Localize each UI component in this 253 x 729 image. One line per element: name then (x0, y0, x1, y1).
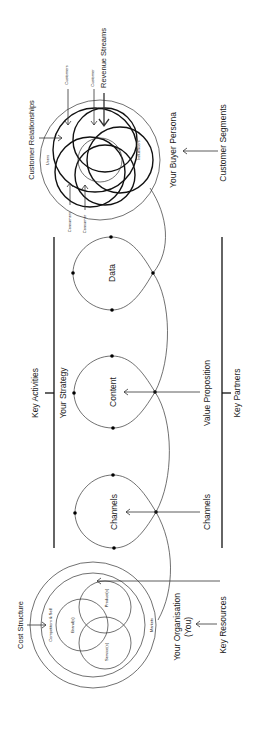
venn-brands (56, 599, 108, 651)
data-label: Data (107, 264, 117, 282)
content-label: Content (108, 376, 118, 406)
strategy-section: Key Activities Your Strategy Key Partner… (30, 188, 242, 620)
org-pointer-arrow-icon (196, 621, 217, 627)
value-proposition-label: Value Proposition (202, 360, 212, 426)
cost-structure-label: Cost Structure (16, 601, 25, 649)
business-model-diagram: Users Influencers Customer Relationships… (0, 0, 253, 729)
products-label: Product(s) (104, 588, 109, 607)
key-resources-label: Key Resources (218, 596, 228, 654)
your-strategy-title: Your Strategy (58, 367, 68, 419)
persona-core (78, 138, 122, 182)
buyer-persona-title: Your Buyer Persona (168, 112, 178, 188)
organisation-title: Your Organisation (172, 593, 182, 661)
organisation-graphic: Brand(s) Product(s) Service(s) Competito… (16, 562, 228, 688)
org-competitors-ring (41, 573, 145, 677)
channels-loop-label: Channels (109, 494, 119, 530)
revenue-streams-label: Revenue Streams (99, 28, 108, 88)
competitors-self-label: Competitors & Self (48, 607, 53, 641)
customers-label: Customers (64, 65, 69, 84)
services-label: Service(s) (104, 642, 109, 661)
key-activities-label: Key Activities (30, 368, 40, 418)
channels-pointer-label: Channels (202, 494, 212, 530)
customer-segments-label: Customer Segments (218, 104, 228, 181)
persona-outer-ring (40, 100, 160, 220)
key-partners-label: Key Partners (232, 368, 242, 417)
customer-arrow-icon (91, 89, 97, 125)
organisation-subtitle: (You) (183, 617, 193, 637)
users-label: Users (45, 155, 50, 165)
influencers-label: Influencers (136, 140, 141, 160)
customer-relationships-label: Customer Relationships (27, 100, 36, 180)
brands-label: Brand(s) (70, 617, 75, 633)
customer-segments-arrow-icon (183, 148, 218, 154)
consumers-label: Consumers (67, 212, 72, 232)
channels-arrow-icon (126, 509, 200, 515)
buyer-persona-graphic: Users Influencers Customer Relationships… (27, 28, 228, 233)
customer-relationships-arrow-icon (39, 135, 62, 141)
flow-curve (150, 188, 171, 620)
consumer-label: Consumer (82, 214, 87, 233)
value-proposition-arrow-icon (124, 389, 200, 395)
markets-label: Markets (149, 618, 154, 632)
customer-label: Customer (90, 69, 95, 87)
